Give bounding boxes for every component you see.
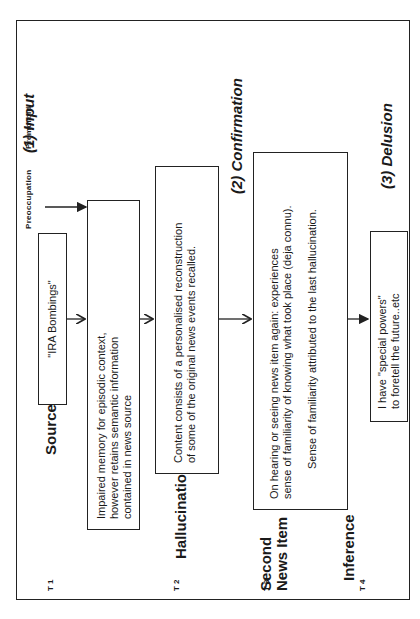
- time-marker-t2: T 2: [172, 579, 181, 591]
- time-marker-t4: T 4: [358, 579, 367, 591]
- header-inference: Inference: [340, 514, 357, 581]
- time-marker-t1: T 1: [46, 579, 55, 591]
- diagram-canvas: Premorbid Preoccupation Source News Item…: [0, 0, 420, 619]
- header-hallucination: Hallucination: [172, 465, 189, 559]
- time-marker-t3: T 3: [262, 579, 271, 591]
- box-content-reconstruction: Content consists of a personalised recon…: [155, 166, 219, 474]
- box-delusion: I have "special powers" to foretell the …: [370, 231, 408, 422]
- stage-delusion-label: (3) Delusion: [378, 103, 395, 189]
- stage-confirmation-label: (2) Confirmation: [228, 78, 245, 194]
- box-second-news-item: On hearing or seeing news item again: ex…: [253, 152, 348, 510]
- preoccupation-label: Preoccupation: [24, 170, 33, 229]
- box-ira-bombings: "IRA Bombings": [38, 233, 67, 405]
- stage-input-label: (1) Input: [20, 94, 37, 153]
- box-impaired-memory: Impaired memory for episodic context, ho…: [87, 200, 140, 530]
